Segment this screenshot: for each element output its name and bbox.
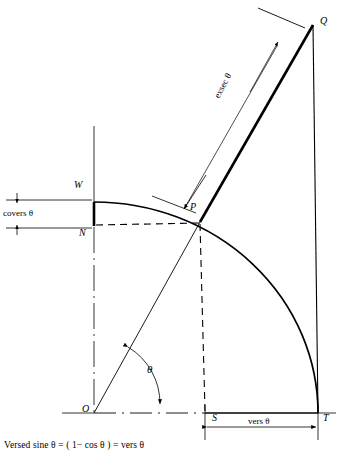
point-label-N: N bbox=[79, 228, 86, 238]
figure-caption: Versed sine θ = ( 1− cos θ ) = vers θ bbox=[4, 440, 144, 450]
vers-dimension-label: vers θ bbox=[245, 416, 273, 426]
theta-angle-arc bbox=[128, 347, 160, 404]
point-label-W: W bbox=[74, 180, 82, 190]
tangent-stroke-at-Q bbox=[258, 8, 305, 28]
quarter-circle-arc bbox=[94, 202, 318, 413]
angle-label-theta: θ bbox=[147, 364, 152, 375]
point-label-O: O bbox=[82, 404, 89, 414]
perpendicular-PS-dashed bbox=[200, 224, 205, 411]
geometry-diagram-svg bbox=[0, 0, 340, 456]
covers-dimension-label: covers θ bbox=[3, 208, 33, 218]
point-label-Q: Q bbox=[320, 16, 327, 26]
point-label-P: P bbox=[190, 202, 196, 212]
point-label-T: T bbox=[323, 413, 329, 423]
figure-root: Q P W N O S T θ exsec θ vers θ covers θ … bbox=[0, 0, 340, 456]
secant-PQ-exsec bbox=[200, 25, 313, 222]
exsec-arrow-upper bbox=[250, 42, 278, 92]
radius-OP bbox=[94, 222, 200, 413]
horizontal-NP-dashed bbox=[96, 223, 200, 225]
exsec-dimension-line bbox=[184, 46, 277, 209]
tangent-line-TQ bbox=[313, 25, 318, 413]
point-label-S: S bbox=[212, 413, 217, 423]
